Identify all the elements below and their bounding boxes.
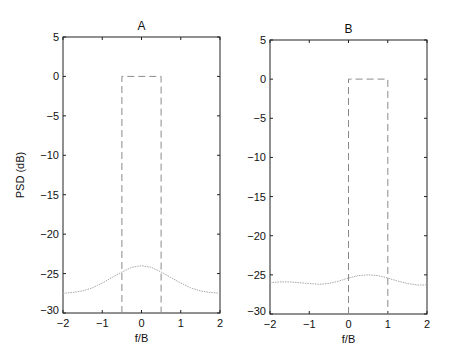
y-tick-label: −30 — [247, 305, 266, 317]
y-tick-label: 5 — [53, 31, 59, 43]
x-tick-label: 2 — [217, 317, 223, 329]
y-tick-label: −5 — [46, 110, 59, 122]
y-tick-label: −10 — [247, 151, 266, 163]
series-psd-line — [63, 266, 220, 294]
y-tick-label: −20 — [40, 228, 59, 240]
y-tick-label: 5 — [260, 34, 266, 46]
chart-title: B — [344, 22, 352, 36]
series-mask-line — [349, 79, 388, 314]
y-tick-label: −10 — [40, 149, 59, 161]
series-mask-line — [122, 76, 161, 313]
y-tick-label: −25 — [40, 268, 59, 280]
y-tick-label: −15 — [247, 191, 266, 203]
y-tick-label: −25 — [247, 269, 266, 281]
y-axis-label: PSD (dB) — [14, 152, 26, 198]
y-tick-label: 0 — [260, 73, 266, 85]
x-tick-label: 0 — [345, 318, 351, 330]
y-tick-label: 0 — [53, 70, 59, 82]
x-tick-label: −1 — [96, 317, 109, 329]
y-tick-label: −20 — [247, 230, 266, 242]
y-tick-label: −15 — [40, 189, 59, 201]
x-tick-label: 0 — [138, 317, 144, 329]
x-tick-label: 2 — [424, 318, 430, 330]
figure: −2−101250−5−10−15−20−25−30Af/BPSD (dB) −… — [0, 0, 452, 363]
x-tick-label: −2 — [57, 317, 70, 329]
x-axis-label: f/B — [135, 332, 148, 344]
x-tick-label: 1 — [178, 317, 184, 329]
panel-b: −2−101250−5−10−15−20−25−30Bf/B — [247, 22, 430, 345]
panel-a: −2−101250−5−10−15−20−25−30Af/BPSD (dB) — [14, 19, 223, 344]
chart-title: A — [137, 19, 145, 33]
x-tick-label: 1 — [385, 318, 391, 330]
y-tick-label: −30 — [40, 304, 59, 316]
axes-frame — [63, 37, 220, 313]
y-tick-label: −5 — [253, 112, 266, 124]
x-axis-label: f/B — [342, 333, 355, 345]
x-tick-label: −2 — [264, 318, 277, 330]
x-tick-label: −1 — [303, 318, 316, 330]
